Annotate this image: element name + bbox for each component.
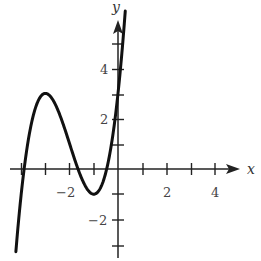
y-tick-label-neg2: −2 (88, 213, 107, 228)
x-tick-label-neg2: −2 (56, 185, 75, 200)
y-axis-label: y (111, 0, 121, 15)
x-tick-label-4: 4 (211, 185, 219, 200)
cubic-function-graph: x y −2 2 4 4 2 −2 (0, 0, 261, 261)
y-tick-label-2: 2 (100, 112, 108, 127)
x-axis-label: x (247, 161, 255, 177)
y-tick-label-4: 4 (100, 62, 108, 77)
x-tick-label-2: 2 (163, 185, 171, 200)
cubic-curve (16, 11, 125, 252)
